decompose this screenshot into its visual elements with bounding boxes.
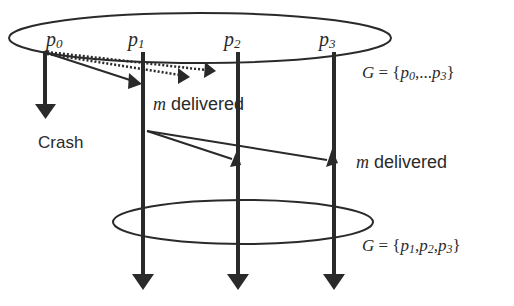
crash-label: Crash: [38, 133, 83, 152]
process-label-p3: p3: [317, 28, 336, 51]
process-label-p1: p1: [126, 28, 145, 51]
process-timeline-p3: [323, 52, 345, 290]
process-label-p0: p0: [44, 28, 63, 51]
arrowhead-icon: [128, 73, 142, 89]
view-synchrony-diagram: p0 p1 p2 p3 Crash m delivered m delivere…: [0, 0, 514, 306]
arrowhead-icon: [204, 62, 216, 78]
arrow-down-icon: [323, 274, 345, 290]
message-p0-to-p2-lost: [47, 54, 190, 84]
arrow-down-icon: [227, 274, 249, 290]
message-p1-to-p2: [147, 131, 241, 167]
delivered-label-p3: m delivered: [356, 152, 447, 172]
arrowhead-icon: [178, 68, 190, 84]
process-timeline-p1: [132, 52, 154, 290]
process-label-p2: p2: [222, 28, 241, 51]
process-timeline-p2: [227, 52, 249, 290]
process-timeline-p0: [35, 51, 56, 119]
arrow-down-icon: [132, 274, 154, 290]
arrow-down-icon: [35, 104, 56, 119]
delivered-label-p1: m delivered: [153, 94, 244, 114]
group-label-top: G = {p0,...p3}: [362, 63, 455, 83]
message-p1-to-p3: [147, 131, 338, 167]
group-label-bottom: G = {p1,p2,p3}: [362, 236, 461, 256]
message-p0-to-p3-lost: [47, 52, 216, 78]
arrowhead-icon: [326, 149, 338, 167]
